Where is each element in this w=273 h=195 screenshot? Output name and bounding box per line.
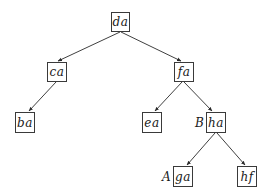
edge-ca-ba (29, 82, 56, 111)
node-da: da (111, 12, 130, 32)
edge-fa-ea (155, 82, 182, 111)
node-hf: hf (237, 166, 257, 187)
tree-edges (0, 0, 273, 195)
label-B: B (195, 117, 204, 129)
edge-ha-ga (187, 133, 215, 165)
node-ga: ga (173, 166, 193, 187)
node-ha: ha (206, 112, 226, 133)
node-ba: ba (15, 112, 35, 133)
label-A: A (162, 171, 171, 183)
edge-fa-ha (184, 82, 212, 111)
edge-da-ca (58, 32, 120, 61)
node-ea: ea (142, 112, 162, 133)
edge-ha-hf (217, 133, 245, 165)
node-ca: ca (47, 62, 67, 82)
tree-diagram: da ca fa ba ea ha ga hf B A (0, 0, 273, 195)
edge-da-fa (121, 32, 181, 61)
node-fa: fa (174, 62, 194, 82)
